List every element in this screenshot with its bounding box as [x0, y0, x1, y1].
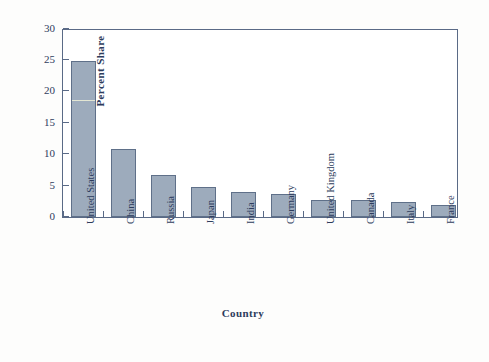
y-axis-tick-label: 10 [15, 148, 55, 159]
y-axis-tick [63, 185, 69, 186]
y-axis-tick [63, 59, 69, 60]
x-axis-tick [103, 211, 104, 217]
bar-highlight-line [72, 100, 95, 101]
x-axis-tick [183, 211, 184, 217]
y-axis-tick-label: 30 [15, 23, 55, 34]
x-axis-tick [263, 211, 264, 217]
y-axis-tick [63, 153, 69, 154]
x-axis-category-label: France [446, 195, 457, 224]
x-axis-category-label: Canada [366, 193, 377, 225]
y-axis-tick [63, 90, 69, 91]
x-axis-category-label: United Kingdom [326, 153, 337, 224]
x-axis-tick [343, 211, 344, 217]
plot-area: 0 5 10 15 20 25 30 Percent Share [62, 29, 458, 218]
chart-screenshot: 0 5 10 15 20 25 30 Percent Share [0, 0, 489, 362]
x-axis-category-label: India [246, 202, 257, 224]
x-axis-title-text: Country [222, 307, 265, 319]
y-axis-tick-label: 25 [15, 54, 55, 65]
x-axis-category-label: Italy [406, 205, 417, 224]
x-axis-category-label: United States [86, 168, 97, 224]
x-axis-category-label: Russia [166, 196, 177, 224]
y-axis-tick-label: 5 [15, 180, 55, 191]
y-axis-tick [63, 122, 69, 123]
y-axis-tick-label: 0 [15, 211, 55, 222]
x-axis-tick [423, 211, 424, 217]
x-axis-tick [223, 211, 224, 217]
x-axis-tick [63, 211, 64, 217]
x-axis-tick [143, 211, 144, 217]
y-axis-tick-label: 15 [15, 117, 55, 128]
x-axis-category-label: Japan [206, 200, 217, 224]
x-axis-tick [383, 211, 384, 217]
x-axis-tick [303, 211, 304, 217]
x-axis-category-label: Germany [286, 185, 297, 224]
x-axis-title: Country [0, 307, 489, 319]
y-axis-tick-label: 20 [15, 85, 55, 96]
y-axis-tick [63, 28, 69, 29]
x-axis-category-label: China [126, 199, 137, 224]
